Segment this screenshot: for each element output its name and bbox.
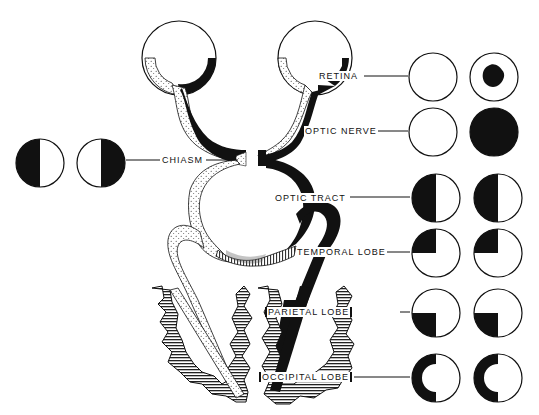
field-occipital-lobe-right-eye xyxy=(474,354,522,402)
label-chiasm: CHIASM xyxy=(161,155,204,165)
field-optic-nerve-right-eye xyxy=(470,108,518,156)
label-occipital-lobe: OCCIPITAL LOBE xyxy=(259,372,352,382)
left-eye xyxy=(142,21,216,95)
field-temporal-lobe-right-eye xyxy=(474,229,522,277)
label-optic-nerve: OPTIC NERVE xyxy=(304,126,378,136)
field-optic-tract-right-eye xyxy=(474,174,522,222)
field-optic-tract-left-eye xyxy=(412,174,460,222)
left-optic-nerve xyxy=(172,85,246,164)
label-temporal-lobe: TEMPORAL LOBE xyxy=(296,247,387,257)
field-retina-right-eye xyxy=(470,53,518,101)
field-parietal-lobe-right-eye xyxy=(474,289,522,337)
right-eye xyxy=(278,21,352,95)
left-optic-tract xyxy=(146,160,244,392)
label-optic-tract: OPTIC TRACT xyxy=(274,193,347,203)
field-chiasm-left-eye xyxy=(16,139,64,187)
field-retina-left-eye xyxy=(409,53,457,101)
field-parietal-lobe-left-eye xyxy=(412,289,460,337)
field-optic-nerve-left-eye xyxy=(409,108,457,156)
label-parietal-lobe: PARIETAL LOBE xyxy=(265,307,352,317)
lateral-geniculate-body xyxy=(216,246,296,266)
field-temporal-lobe-left-eye xyxy=(412,229,460,277)
visual-pathway-diagram xyxy=(0,0,539,415)
field-chiasm-right-eye xyxy=(77,139,125,187)
label-retina: RETINA xyxy=(318,71,359,81)
right-optic-nerve xyxy=(258,85,320,164)
field-occipital-lobe-left-eye xyxy=(412,354,460,402)
